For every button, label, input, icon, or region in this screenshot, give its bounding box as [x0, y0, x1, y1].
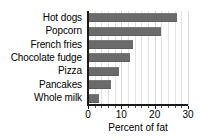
category-label: Popcorn [0, 24, 85, 37]
category-label: French fries [0, 38, 85, 51]
bar-row [88, 78, 188, 91]
bar-chart: Hot dogs Popcorn French fries Chocolate … [0, 0, 203, 140]
y-axis-line [87, 11, 89, 106]
bar-row [88, 11, 188, 24]
bar [88, 13, 177, 22]
bar [88, 53, 130, 62]
bar-row [88, 24, 188, 37]
bar [88, 40, 133, 49]
bar-row [88, 51, 188, 64]
bar-row [88, 38, 188, 51]
category-axis-labels: Hot dogs Popcorn French fries Chocolate … [0, 11, 85, 105]
bar [88, 27, 161, 36]
x-axis-title: Percent of fat [88, 122, 188, 133]
bar-row [88, 65, 188, 78]
x-tick-label: 0 [85, 108, 91, 121]
category-label: Hot dogs [0, 11, 85, 24]
plot-area [88, 11, 188, 105]
bar-series [88, 11, 188, 105]
x-tick-label: 10 [116, 108, 127, 121]
x-axis-tick-labels: 0102030 [88, 108, 188, 121]
gridline [188, 11, 189, 105]
category-label: Pizza [0, 65, 85, 78]
bar [88, 80, 111, 89]
category-label: Pancakes [0, 78, 85, 91]
bar [88, 94, 99, 103]
bar-row [88, 92, 188, 105]
category-label: Whole milk [0, 92, 85, 105]
category-label: Chocolate fudge [0, 51, 85, 64]
x-tick-label: 20 [149, 108, 160, 121]
bar [88, 67, 119, 76]
x-tick-label: 30 [182, 108, 193, 121]
